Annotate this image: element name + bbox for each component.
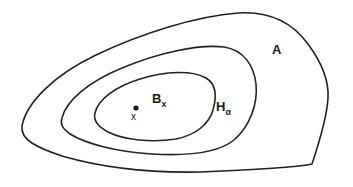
- label-inner-region-b-x: Bx: [152, 92, 166, 108]
- label-h-subscript-alpha: α: [225, 107, 230, 117]
- label-b-subscript-x: x: [161, 99, 166, 109]
- label-middle-region-h-alpha: Hα: [216, 100, 231, 116]
- point-x-marker: [133, 105, 138, 110]
- figure-container: A Hα Bx x: [0, 0, 353, 187]
- label-outer-region-a: A: [272, 43, 281, 56]
- nested-regions-diagram: [0, 0, 353, 187]
- label-b-base: B: [152, 91, 161, 106]
- label-point-x: x: [131, 112, 136, 122]
- label-h-base: H: [216, 99, 225, 114]
- outer-region-a-curve: [22, 13, 328, 172]
